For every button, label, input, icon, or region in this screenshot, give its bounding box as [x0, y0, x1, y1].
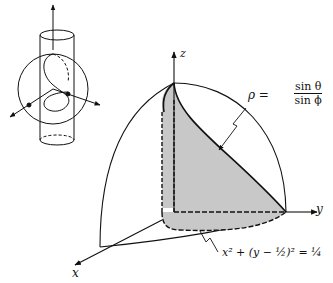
inset-sphere-cylinder — [10, 5, 100, 145]
shaded-surface — [174, 83, 286, 212]
x-axis — [75, 220, 162, 265]
shaded-base — [162, 212, 286, 230]
x-axis-label: x — [72, 266, 79, 280]
surface-label-denominator: sin ϕ — [294, 94, 322, 107]
surface-label-numerator: sin θ — [294, 80, 322, 94]
cylinder-equation-label: x² + (y − ½)² = ¼ — [222, 246, 322, 259]
main-figure — [75, 52, 317, 265]
surface-label-lhs: ρ = — [248, 88, 269, 102]
y-axis-label: y — [316, 202, 323, 216]
z-axis-label: z — [180, 47, 186, 60]
diagram-canvas — [0, 0, 333, 283]
inset-cylinder-bottom — [40, 140, 74, 145]
surface-label-fraction: sin θ sin ϕ — [294, 80, 322, 107]
inset-cylinder-top — [40, 30, 74, 40]
inset-y-axis — [53, 89, 100, 105]
inset-x-axis — [10, 89, 53, 117]
